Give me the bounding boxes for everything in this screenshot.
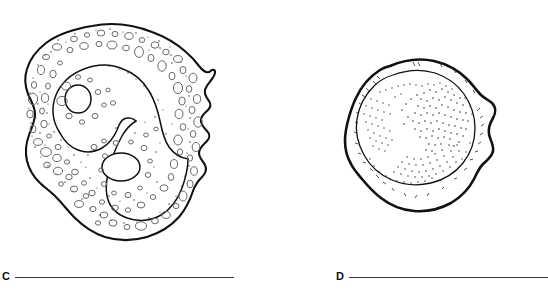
scale-bar-c bbox=[15, 277, 234, 278]
figure-root: C D bbox=[0, 0, 548, 291]
scale-bar-d bbox=[349, 277, 548, 278]
panel-c bbox=[0, 0, 274, 291]
panel-label-c: C bbox=[2, 269, 10, 283]
caption-d: D bbox=[336, 268, 548, 284]
plasma-membrane-d bbox=[356, 71, 475, 185]
cell-illustration-c bbox=[0, 0, 274, 291]
panel-d bbox=[274, 0, 548, 291]
caption-c: C bbox=[2, 268, 234, 284]
panel-label-d: D bbox=[336, 269, 344, 283]
cell-illustration-d bbox=[274, 0, 548, 291]
